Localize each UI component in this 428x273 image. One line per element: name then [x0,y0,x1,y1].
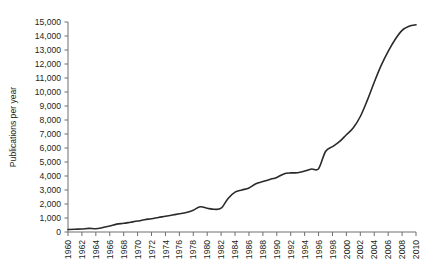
x-tick-label: 2004 [369,240,379,259]
y-tick-label: 3,000 [39,185,61,195]
y-axis-title: Publications per year [8,87,18,167]
y-tick-label: 1,000 [39,213,61,223]
x-tick-label: 1996 [314,240,324,259]
y-tick-label: 10,000 [35,87,62,97]
x-tick-label: 1994 [300,240,310,259]
x-tick-label: 2010 [411,240,421,259]
x-tick-label: 1998 [328,240,338,259]
data-series-line [68,25,416,230]
x-tick-label: 1972 [147,240,157,259]
x-tick-label: 1976 [174,240,184,259]
chart-canvas: Publications per year 01,0002,0003,0004,… [0,0,428,273]
y-tick-label: 15,000 [35,17,62,27]
x-tick-label: 1970 [133,240,143,259]
y-tick-label: 14,000 [35,31,62,41]
y-tick-label: 2,000 [39,199,61,209]
y-tick-label: 7,000 [39,129,61,139]
y-tick-label: 6,000 [39,143,61,153]
y-tick-label: 11,000 [35,73,61,83]
x-tick-label: 1966 [105,240,115,259]
x-tick-label: 1988 [258,240,268,259]
x-tick-label: 1990 [272,240,282,259]
x-tick-label: 1978 [188,240,198,259]
x-tick-label: 1968 [119,240,129,259]
x-tick-label: 2008 [397,240,407,259]
y-tick-label: 13,000 [35,45,62,55]
y-tick-label: 9,000 [39,101,61,111]
x-tick-label: 2000 [342,240,352,259]
y-tick-label: 12,000 [35,59,62,69]
y-axis-title-text: Publications per year [8,87,18,167]
y-tick-label: 0 [56,227,61,237]
y-tick-label: 5,000 [39,157,61,167]
y-tick-label: 8,000 [39,115,61,125]
x-tick-label: 1980 [202,240,212,259]
x-tick-label: 1974 [161,240,171,259]
publications-per-year-chart: Publications per year 01,0002,0003,0004,… [0,0,428,273]
x-tick-label: 1962 [77,240,87,259]
x-tick-label: 2006 [383,240,393,259]
y-axis-tick-labels: 01,0002,0003,0004,0005,0006,0007,0008,00… [35,17,68,237]
y-tick-label: 4,000 [39,171,61,181]
x-axis-tick-labels: 1960196219641966196819701972197419761978… [63,232,421,259]
x-tick-label: 1986 [244,240,254,259]
x-tick-label: 1960 [63,240,73,259]
x-tick-label: 1984 [230,240,240,259]
x-tick-label: 1964 [91,240,101,259]
x-tick-label: 1992 [286,240,296,259]
x-tick-label: 1982 [216,240,226,259]
x-tick-label: 2002 [355,240,365,259]
